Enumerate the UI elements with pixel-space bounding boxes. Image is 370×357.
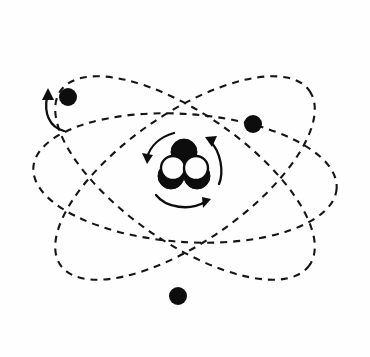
- electron-bottom: [169, 287, 187, 305]
- atom-illustration-canvas: [0, 0, 370, 357]
- nucleon-right-light: [184, 156, 208, 180]
- nucleus-spin-arrow-left: [147, 133, 174, 158]
- nucleus-spin-arrow-right-head: [205, 136, 217, 147]
- electron-upper-left: [59, 88, 77, 106]
- atom-diagram-figure: Atom diagram Schematic line drawing of a…: [0, 0, 370, 357]
- nucleus-group: [158, 139, 210, 189]
- electron-right: [244, 115, 262, 133]
- nucleus-spin-arrow-right: [210, 141, 221, 184]
- nucleon-left-light: [161, 156, 185, 180]
- nucleus-spin-arrow-bottom-head: [202, 197, 211, 208]
- nucleus-spin-arrow-left-head: [142, 153, 153, 164]
- electron-upper-left-motion-arrow-head: [42, 88, 54, 100]
- nucleus-spin-arrow-bottom: [156, 195, 205, 207]
